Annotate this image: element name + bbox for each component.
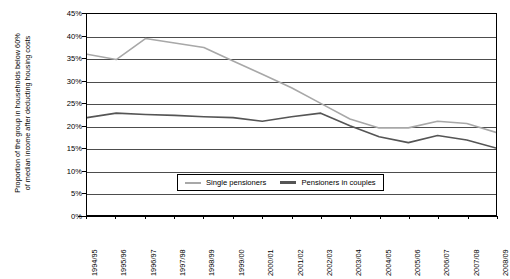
y-axis-tick-mark bbox=[82, 216, 86, 217]
x-axis-tick-mark bbox=[292, 216, 293, 219]
x-axis-tick-mark bbox=[174, 216, 175, 219]
x-axis-tick-label: 1994/95 bbox=[90, 216, 99, 276]
x-axis-tick-mark bbox=[86, 216, 87, 219]
x-axis-tick-labels: 1994/951995/961996/971997/981998/991999/… bbox=[86, 216, 497, 279]
y-axis-title: Proportion of the group in households be… bbox=[8, 8, 38, 208]
x-axis-tick-mark bbox=[262, 216, 263, 219]
legend-item-label: Pensioners in couples bbox=[301, 178, 375, 187]
y-axis-tick-label: 15% bbox=[48, 144, 82, 153]
y-axis-tick-mark bbox=[82, 103, 86, 104]
x-axis-tick-mark bbox=[115, 216, 116, 219]
y-axis-tick-mark bbox=[82, 126, 86, 127]
x-axis-tick-label: 1995/96 bbox=[119, 216, 128, 276]
legend-swatch-icon bbox=[280, 181, 296, 183]
x-axis-tick-label: 2001/02 bbox=[296, 216, 305, 276]
x-axis-tick-label: 1997/98 bbox=[178, 216, 187, 276]
x-axis-tick-mark bbox=[409, 216, 410, 219]
y-axis-tick-mark bbox=[82, 58, 86, 59]
series-line bbox=[87, 113, 496, 148]
x-axis-tick-mark bbox=[321, 216, 322, 219]
x-axis-tick-label: 2000/01 bbox=[266, 216, 275, 276]
x-axis-tick-mark bbox=[438, 216, 439, 219]
y-axis-tick-label: 0% bbox=[48, 212, 82, 221]
x-axis-tick-mark bbox=[233, 216, 234, 219]
x-axis-tick-mark bbox=[380, 216, 381, 219]
y-axis-tick-label: 25% bbox=[48, 99, 82, 108]
x-axis-tick-label: 2006/07 bbox=[442, 216, 451, 276]
x-axis-tick-label: 2002/03 bbox=[325, 216, 334, 276]
y-axis-tick-label: 45% bbox=[48, 9, 82, 18]
y-axis-tick-label: 10% bbox=[48, 166, 82, 175]
x-axis-tick-mark bbox=[497, 216, 498, 219]
x-axis-tick-mark bbox=[145, 216, 146, 219]
legend-item: Single pensioners bbox=[185, 178, 266, 187]
y-axis-tick-label: 30% bbox=[48, 76, 82, 85]
x-axis-tick-label: 1996/97 bbox=[149, 216, 158, 276]
y-axis-tick-label: 35% bbox=[48, 54, 82, 63]
y-axis-tick-mark bbox=[82, 36, 86, 37]
x-axis-tick-label: 1998/99 bbox=[207, 216, 216, 276]
x-axis-tick-mark bbox=[468, 216, 469, 219]
y-axis-tick-mark bbox=[82, 193, 86, 194]
x-axis-tick-label: 2003/04 bbox=[354, 216, 363, 276]
x-axis-tick-label: 2004/05 bbox=[384, 216, 393, 276]
x-axis-tick-label: 1999/00 bbox=[237, 216, 246, 276]
legend-item-label: Single pensioners bbox=[206, 178, 266, 187]
legend-swatch-icon bbox=[185, 182, 201, 184]
series-line bbox=[87, 39, 496, 133]
x-axis-tick-mark bbox=[203, 216, 204, 219]
y-axis-tick-label: 40% bbox=[48, 31, 82, 40]
x-axis-tick-label: 2008/09 bbox=[501, 216, 510, 276]
y-axis-tick-mark bbox=[82, 171, 86, 172]
y-axis-tick-label: 5% bbox=[48, 189, 82, 198]
y-axis-tick-labels: 0%5%10%15%20%25%30%35%40%45% bbox=[44, 0, 82, 279]
x-axis-tick-label: 2005/06 bbox=[413, 216, 422, 276]
legend-item: Pensioners in couples bbox=[280, 178, 375, 187]
y-axis-title-text: Proportion of the group in households be… bbox=[13, 13, 33, 213]
y-axis-tick-label: 20% bbox=[48, 121, 82, 130]
y-axis-tick-mark bbox=[82, 81, 86, 82]
x-axis-tick-label: 2007/08 bbox=[472, 216, 481, 276]
y-axis-tick-mark bbox=[82, 148, 86, 149]
y-axis-tick-mark bbox=[82, 13, 86, 14]
chart-legend: Single pensionersPensioners in couples bbox=[177, 174, 384, 191]
x-axis-tick-mark bbox=[350, 216, 351, 219]
